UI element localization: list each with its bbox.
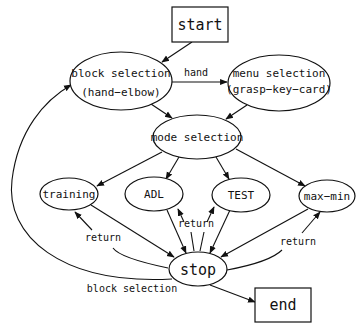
edge-label-hand: hand bbox=[184, 67, 208, 78]
menu-selection-sublabel: (grasp−key−card) bbox=[226, 83, 332, 96]
edge-start-to-block-selection bbox=[162, 42, 192, 62]
end-label: end bbox=[269, 296, 296, 314]
edge-stop-return-training bbox=[113, 248, 168, 268]
edge-label-return-center: return bbox=[178, 218, 214, 229]
edge-label-block-selection-loop: block selection bbox=[87, 283, 177, 294]
test-label: TEST bbox=[228, 189, 255, 202]
node-menu-selection: menu selection (grasp−key−card) bbox=[226, 55, 332, 111]
mode-selection-label: mode selection bbox=[151, 131, 244, 144]
menu-selection-label: menu selection bbox=[233, 67, 326, 80]
edge-training-to-stop bbox=[91, 205, 174, 257]
edge-test-to-stop bbox=[210, 210, 230, 253]
node-adl: ADL bbox=[125, 177, 183, 211]
edge-menu-to-mode-selection bbox=[226, 105, 247, 119]
node-start: start bbox=[172, 7, 228, 42]
flowchart-diagram: start block selection (hand−elbow) menu … bbox=[0, 0, 363, 329]
edge-max-min-to-stop bbox=[221, 209, 308, 257]
node-block-selection: block selection (hand−elbow) bbox=[70, 52, 172, 110]
edge-mode-to-adl bbox=[166, 157, 179, 179]
node-training: training bbox=[40, 178, 98, 210]
node-test: TEST bbox=[212, 178, 270, 212]
edge-mode-to-test bbox=[216, 157, 229, 179]
edge-label-return-left: return bbox=[85, 232, 121, 243]
edge-stop-return-max-min bbox=[227, 250, 282, 270]
max-min-label: max−min bbox=[304, 190, 350, 203]
node-max-min: max−min bbox=[299, 180, 355, 212]
training-label: training bbox=[43, 188, 96, 201]
block-selection-sublabel: (hand−elbow) bbox=[81, 86, 160, 99]
node-end: end bbox=[255, 288, 311, 322]
node-mode-selection: mode selection bbox=[151, 115, 244, 159]
node-stop: stop bbox=[169, 252, 227, 286]
block-selection-ellipse bbox=[70, 52, 172, 110]
edge-block-to-mode-selection bbox=[151, 104, 172, 118]
edge-label-return-right: return bbox=[280, 236, 316, 247]
edge-stop-return-adl bbox=[191, 232, 194, 251]
edge-stop-return-test bbox=[200, 232, 204, 251]
edge-return-max-min-arrow bbox=[302, 212, 320, 233]
edge-return-training-arrow bbox=[75, 212, 92, 230]
edge-stop-to-end bbox=[210, 285, 255, 302]
adl-label: ADL bbox=[144, 188, 164, 201]
start-label: start bbox=[177, 16, 222, 34]
stop-label: stop bbox=[180, 261, 216, 279]
edge-adl-to-stop bbox=[167, 210, 186, 253]
block-selection-label: block selection bbox=[71, 67, 170, 80]
